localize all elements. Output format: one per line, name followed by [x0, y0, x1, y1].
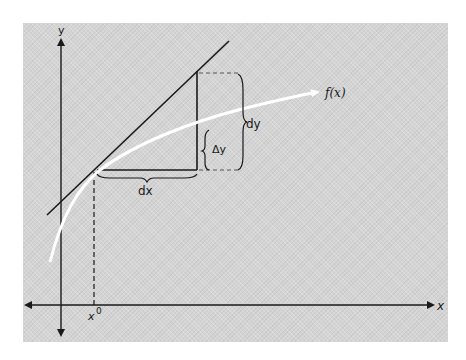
delta-y-label: Δy — [212, 143, 227, 156]
differential-diagram: y x x 0 dy Δy dx f(x) — [0, 0, 466, 360]
curve-label: f(x) — [324, 86, 346, 100]
x0-label-base: x — [87, 310, 95, 323]
x0-label-sup: 0 — [96, 306, 102, 316]
dx-label: dx — [138, 184, 153, 198]
diagram-svg: y x x 0 dy Δy dx f(x) — [0, 0, 466, 360]
curve-fx — [50, 92, 318, 262]
delta-y-brace — [202, 130, 209, 170]
y-axis-label: y — [58, 24, 65, 37]
dy-label: dy — [246, 117, 261, 131]
dx-brace — [97, 174, 197, 182]
x-axis-label: x — [436, 299, 445, 313]
